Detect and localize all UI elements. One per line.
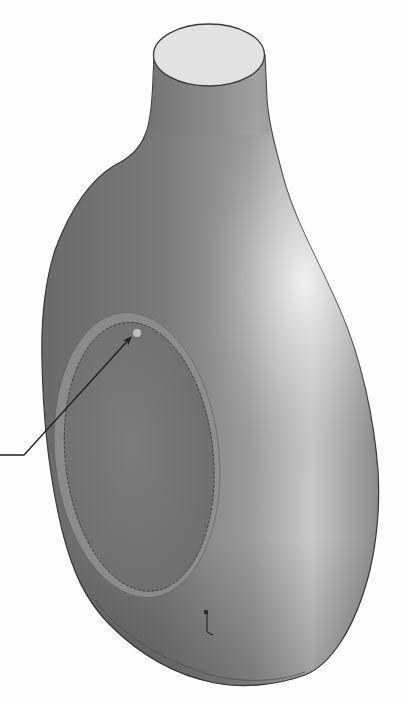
bottle-top-face [154,24,265,86]
figure-canvas: 3D shaded model of bottle with recessed … [0,0,403,705]
bottle-illustration [0,0,403,705]
target-highlight [133,329,141,337]
